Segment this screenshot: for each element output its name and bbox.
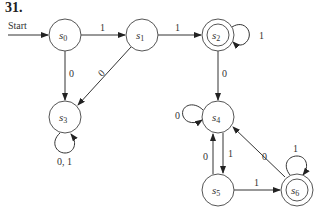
edge-s4-s5: 1	[223, 133, 233, 173]
edge-label: 0, 1	[57, 156, 72, 167]
state-s6-accepting: s6	[281, 174, 313, 206]
edge-label: 1	[259, 30, 264, 41]
state-s2-accepting: s2	[202, 19, 234, 51]
edge-s5-s6: 1	[234, 177, 280, 190]
state-s5: s5	[202, 174, 234, 206]
edge-label: 1	[228, 148, 233, 159]
start-label: Start	[8, 20, 27, 31]
start-arrow: Start	[8, 20, 48, 35]
edge-label: 0	[69, 68, 74, 79]
state-s4: s4	[202, 101, 234, 133]
edge-s5-s4: 0	[203, 134, 213, 174]
edge-s3-loop: 0, 1	[55, 133, 75, 167]
edge-label: 1	[100, 22, 105, 33]
edge-label: 0	[175, 110, 180, 121]
edge-label: 1	[175, 22, 180, 33]
edge-s6-loop: 1	[286, 143, 306, 175]
edge-s2-s4: 0	[218, 51, 227, 100]
edge-s6-s4: 0	[233, 127, 285, 177]
state-s1: s1	[126, 19, 158, 51]
edge-label: 1	[293, 143, 298, 154]
edge-label: 0	[222, 68, 227, 79]
automaton-diagram: Start 1 1 0 0 1 0 0, 1 0 1 0 1	[0, 0, 320, 219]
edge-s0-s3: 0	[65, 51, 74, 100]
edge-label: 0	[203, 151, 208, 162]
edge-label: 1	[254, 177, 259, 188]
edge-s4-loop: 0	[175, 105, 203, 123]
edge-s1-s2: 1	[158, 22, 201, 35]
edge-s2-loop: 1	[232, 25, 264, 46]
state-s3: s3	[49, 101, 81, 133]
edge-s0-s1: 1	[81, 22, 125, 35]
state-s0: s0	[49, 19, 81, 51]
edge-label: 0	[96, 67, 107, 78]
edge-s1-s3: 0	[78, 47, 131, 105]
edge-label: 0	[262, 151, 267, 162]
